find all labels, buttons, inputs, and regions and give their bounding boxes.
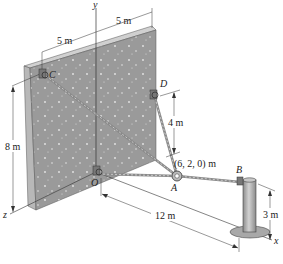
dim-4m: 4 m	[160, 90, 185, 157]
wall	[24, 26, 156, 210]
label-D: D	[159, 78, 168, 89]
post-B	[230, 177, 270, 238]
anchor-D	[150, 90, 158, 99]
dim-3m-label: 3 m	[263, 209, 279, 220]
statics-diagram: y 5 m 5 m 8 m z x C	[0, 0, 283, 264]
label-A: A	[170, 182, 178, 193]
label-B: B	[236, 164, 242, 175]
dim-top-left: 5 m	[57, 35, 73, 46]
label-A-coordinates: (6, 2, 0) m	[174, 158, 216, 170]
z-axis-label: z	[2, 209, 7, 220]
dim-12m: 12 m	[101, 178, 239, 252]
post-top	[243, 178, 256, 182]
label-O: O	[91, 177, 98, 188]
x-axis-label: x	[273, 235, 279, 246]
y-axis-label: y	[92, 0, 98, 10]
dim-top-right: 5 m	[116, 15, 132, 26]
dim-4m-label: 4 m	[168, 117, 184, 128]
post-body	[243, 180, 256, 232]
dim-8m-label: 8 m	[5, 141, 21, 152]
ring-A	[172, 171, 182, 181]
label-C: C	[49, 69, 56, 80]
dim-12m-label: 12 m	[155, 210, 176, 221]
